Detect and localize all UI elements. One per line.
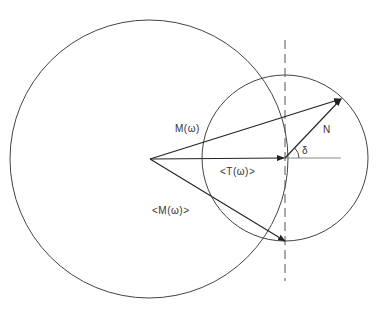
- phasor-diagram: M(ω) <T(ω)> <M(ω)> N δ: [0, 0, 377, 309]
- label-delta: δ: [302, 145, 308, 156]
- vector-m-omega-avg: [150, 159, 285, 241]
- label-m-omega: M(ω): [175, 123, 200, 134]
- label-m-omega-avg: <M(ω)>: [152, 205, 189, 216]
- angle-arc: [295, 148, 299, 158]
- label-n: N: [323, 124, 331, 135]
- large-circle: [10, 20, 288, 298]
- label-t-omega-avg: <T(ω)>: [220, 166, 255, 177]
- vector-t-omega-avg: [150, 158, 284, 159]
